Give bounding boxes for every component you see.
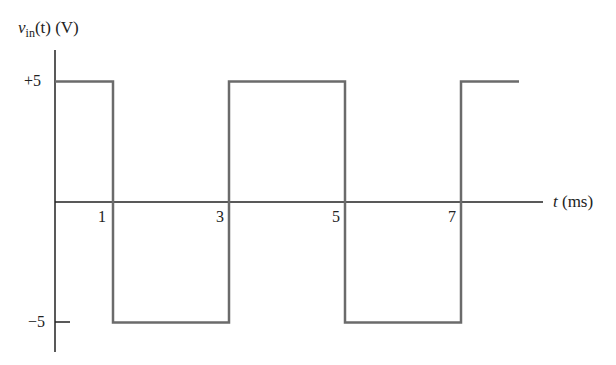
y-axis-label: vin(t) (V) [18,18,79,41]
x-tick-label-5: 5 [332,208,340,226]
x-tick-label-1: 1 [98,208,106,226]
x-tick-label-3: 3 [216,208,224,226]
x-axis-label: t (ms) [553,192,593,212]
y-tick-label-minus5: −5 [28,313,45,331]
square-wave-plot [0,0,616,365]
y-tick-label-plus5: +5 [24,72,41,90]
x-tick-label-7: 7 [448,208,456,226]
